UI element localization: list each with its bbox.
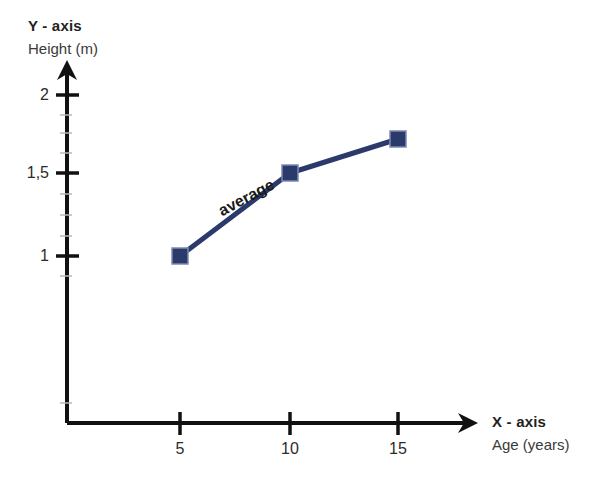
x-tick-label-10: 10 <box>281 441 299 457</box>
x-tick-label-15: 15 <box>389 441 407 457</box>
y-axis-title: Y - axis <box>28 18 82 33</box>
x-tick-label-5: 5 <box>176 441 185 457</box>
line-graph-figure: Y - axis Height (m) X - axis Age (years)… <box>0 0 605 498</box>
x-axis-subtitle: Age (years) <box>492 437 570 452</box>
data-point-marker <box>172 248 188 264</box>
data-point-marker <box>282 165 298 181</box>
data-point-marker <box>390 131 406 147</box>
y-axis-subtitle: Height (m) <box>28 41 98 56</box>
series-line-average <box>180 139 398 256</box>
y-tick-label-2: 2 <box>40 87 49 103</box>
x-axis-title: X - axis <box>492 414 546 429</box>
y-tick-label-1: 1 <box>40 248 49 264</box>
y-tick-label-1-5: 1,5 <box>27 165 49 181</box>
